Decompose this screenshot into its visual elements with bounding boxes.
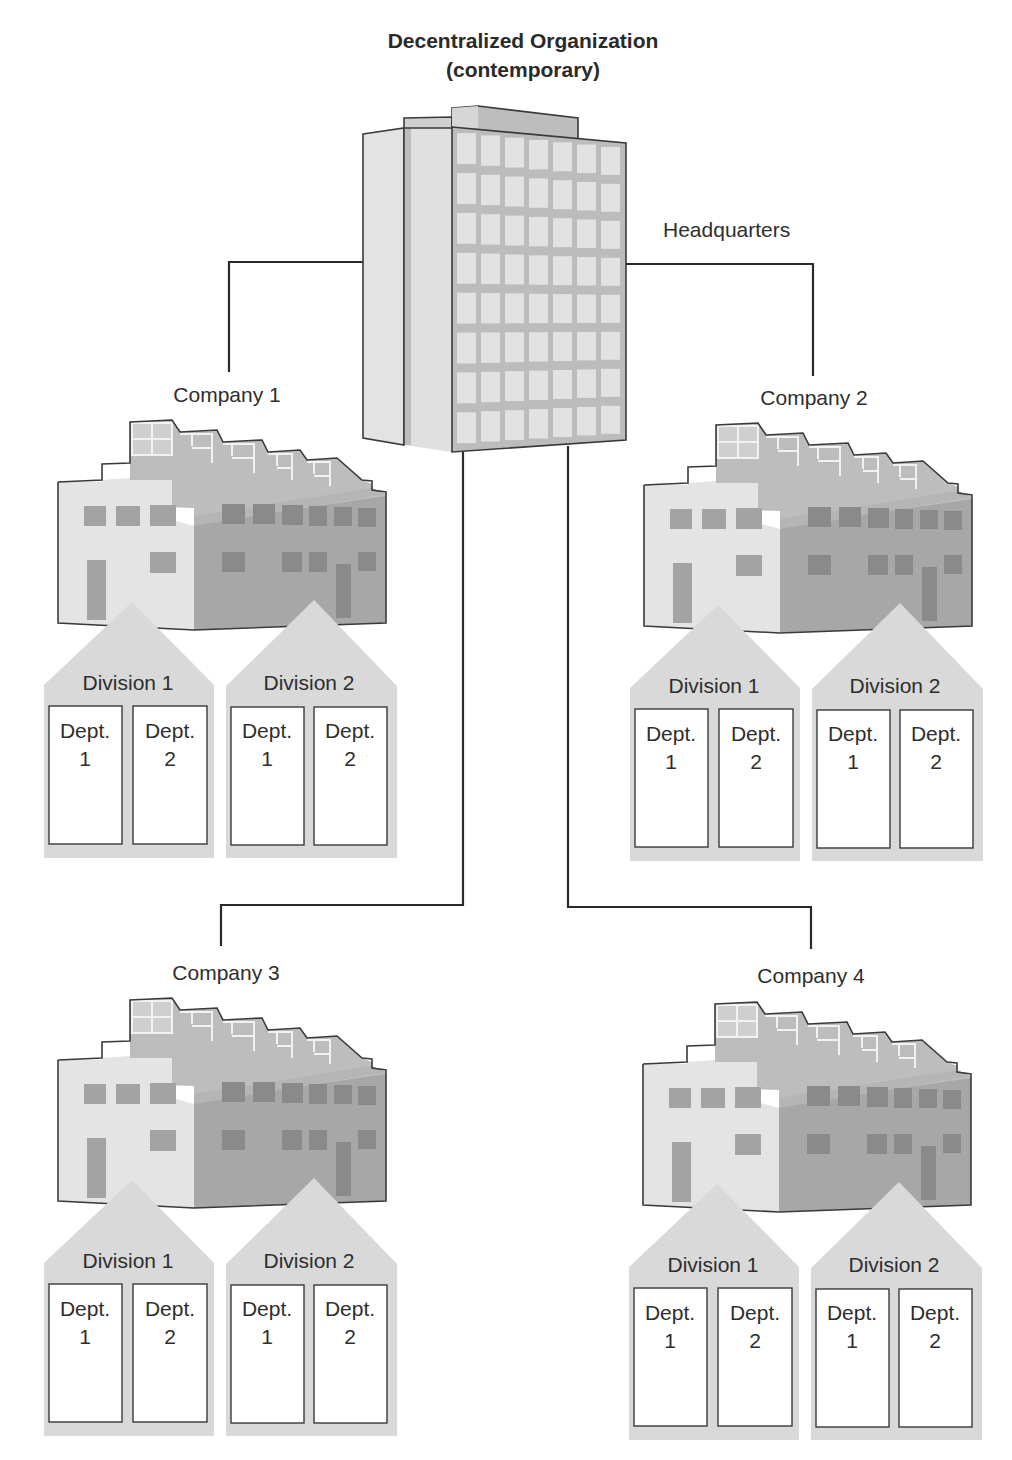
department-number: 2 [164,747,176,770]
division-1-label: Division 1 [82,1249,173,1272]
department-label: Dept. [242,1297,292,1320]
department-number: 2 [749,1329,761,1352]
division-1-label: Division 1 [668,674,759,697]
department-label: Dept. [645,1301,695,1324]
department-number: 1 [847,750,859,773]
division-2: Division 2 Dept. 1 Dept. 2 [812,603,983,861]
department-number: 2 [344,747,356,770]
connector-hq-company-2 [626,264,813,376]
department-number: 1 [79,1325,91,1348]
department-label: Dept. [60,719,110,742]
factory-icon [58,420,386,630]
connector-hq-company-1 [229,262,363,372]
headquarters-label: Headquarters [663,218,790,242]
company-block: Division 1 Dept. 1 Dept. 2 Division 2 De… [42,996,402,1436]
division-2: Division 2 Dept. 1 Dept. 2 [226,1178,397,1436]
department-label: Dept. [731,722,781,745]
division-1-label: Division 1 [82,671,173,694]
department-number: 2 [344,1325,356,1348]
department-number: 2 [164,1325,176,1348]
division-1: Division 1 Dept. 1 Dept. 2 [630,605,800,861]
department-number: 1 [664,1329,676,1352]
department-label: Dept. [828,722,878,745]
company-1-label: Company 1 [173,383,280,407]
department-number: 2 [929,1329,941,1352]
department-label: Dept. [911,722,961,745]
company-4-label: Company 4 [757,964,864,988]
department-label: Dept. [646,722,696,745]
department-label: Dept. [145,719,195,742]
department-number: 2 [930,750,942,773]
division-2: Division 2 Dept. 1 Dept. 2 [811,1182,982,1440]
department-number: 1 [261,747,273,770]
company-4: Division 1 Dept. 1 Dept. 2 Division 2 De… [627,1000,987,1444]
division-1: Division 1 Dept. 1 Dept. 2 [629,1184,799,1440]
department-number: 2 [750,750,762,773]
company-1: Division 1 Dept. 1 Dept. 2 Division 2 De… [42,418,402,862]
department-number: 1 [79,747,91,770]
division-2: Division 2 Dept. 1 Dept. 2 [226,600,397,858]
department-number: 1 [846,1329,858,1352]
division-2-label: Division 2 [848,1253,939,1276]
department-label: Dept. [325,1297,375,1320]
department-number: 1 [261,1325,273,1348]
division-2-label: Division 2 [849,674,940,697]
company-3-label: Company 3 [172,961,279,985]
factory-icon [643,1002,971,1212]
company-2: Division 1 Dept. 1 Dept. 2 Division 2 De… [628,421,988,865]
department-label: Dept. [60,1297,110,1320]
department-label: Dept. [145,1297,195,1320]
department-label: Dept. [827,1301,877,1324]
department-label: Dept. [910,1301,960,1324]
company-3: Division 1 Dept. 1 Dept. 2 Division 2 De… [42,996,402,1440]
company-block: Division 1 Dept. 1 Dept. 2 Division 2 De… [628,421,988,861]
department-label: Dept. [325,719,375,742]
division-1: Division 1 Dept. 1 Dept. 2 [44,602,214,858]
factory-icon [58,998,386,1208]
division-1-label: Division 1 [667,1253,758,1276]
company-2-label: Company 2 [760,386,867,410]
department-number: 1 [665,750,677,773]
factory-icon [644,423,972,633]
company-block: Division 1 Dept. 1 Dept. 2 Division 2 De… [42,418,402,858]
department-label: Dept. [242,719,292,742]
division-2-label: Division 2 [263,1249,354,1272]
company-block: Division 1 Dept. 1 Dept. 2 Division 2 De… [627,1000,987,1440]
division-2-label: Division 2 [263,671,354,694]
department-label: Dept. [730,1301,780,1324]
division-1: Division 1 Dept. 1 Dept. 2 [44,1180,214,1436]
